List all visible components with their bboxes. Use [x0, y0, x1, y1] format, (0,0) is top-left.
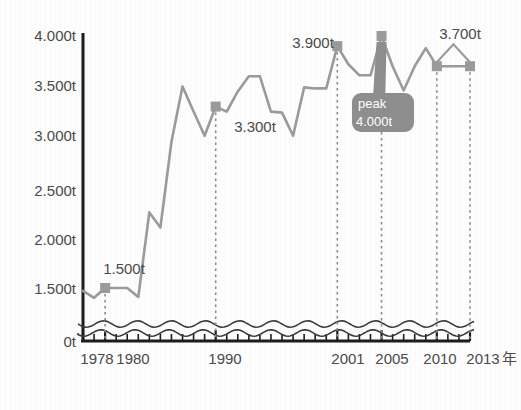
y-tick-0: 0t: [63, 333, 76, 350]
marker-2010[interactable]: [432, 61, 442, 71]
axis-break-wave: [78, 321, 474, 336]
label-1500t: 1.500t: [103, 260, 146, 277]
y-tick-1500: 1.500t: [34, 280, 77, 297]
data-point-markers: [100, 31, 475, 293]
label-3300t: 3.300t: [234, 118, 277, 135]
y-tick-3000: 3.000t: [34, 127, 77, 144]
marker-1980[interactable]: [100, 283, 110, 293]
y-tick-4000: 4.000t: [34, 27, 77, 44]
x-tick-2010: 2010: [423, 350, 456, 367]
label-3900t: 3.900t: [292, 34, 335, 51]
bracket-3700: [437, 44, 470, 62]
x-tick-2013: 2013: [466, 350, 499, 367]
x-tick-1990: 1990: [208, 350, 241, 367]
x-tick-1980: 1980: [116, 350, 149, 367]
x-tick-2005: 2005: [375, 350, 408, 367]
marker-guide-lines: [105, 36, 470, 339]
chart-container: 4.000t 3.500t 3.000t 2.500t 2.000t 1.500…: [0, 0, 521, 410]
series-line: [83, 36, 470, 298]
callout-line-1: peak: [358, 96, 387, 111]
marker-1990[interactable]: [211, 102, 221, 112]
line-chart: 4.000t 3.500t 3.000t 2.500t 2.000t 1.500…: [0, 0, 521, 410]
x-axis-labels: 1978 1980 1990 2001 2005 2010 2013 年: [80, 350, 516, 367]
y-axis-labels: 4.000t 3.500t 3.000t 2.500t 2.000t 1.500…: [34, 27, 77, 350]
data-point-labels: 1.500t 3.300t 3.900t 3.700t: [103, 25, 482, 277]
y-tick-2000: 2.000t: [34, 231, 77, 248]
y-tick-2500: 2.500t: [34, 182, 77, 199]
marker-2005[interactable]: [377, 31, 387, 41]
callout-line-2: 4.000t: [356, 114, 393, 129]
marker-2013[interactable]: [465, 61, 475, 71]
x-axis-unit-suffix: 年: [502, 350, 517, 367]
x-tick-1978: 1978: [80, 350, 113, 367]
y-tick-3500: 3.500t: [34, 77, 77, 94]
label-3700t: 3.700t: [439, 25, 482, 42]
x-tick-2001: 2001: [331, 350, 364, 367]
